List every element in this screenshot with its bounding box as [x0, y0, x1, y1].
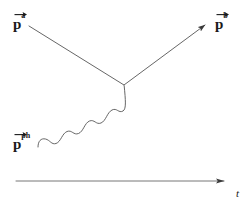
photon-wave-line — [38, 86, 125, 147]
outgoing-particle-superscript: b — [223, 11, 227, 20]
incoming-particle-label: p a — [13, 16, 25, 32]
incoming-photon-superscript: ph — [21, 131, 30, 140]
outgoing-particle-label: p b — [215, 16, 228, 32]
time-axis-label: t — [236, 188, 239, 199]
feynman-diagram-figure: p a p b p ph t — [0, 0, 248, 205]
incoming-particle-line — [29, 26, 124, 85]
incoming-photon-label: p ph — [13, 136, 30, 152]
outgoing-particle-line — [124, 25, 205, 85]
incoming-particle-superscript: a — [21, 11, 25, 20]
diagram-canvas — [0, 0, 248, 205]
